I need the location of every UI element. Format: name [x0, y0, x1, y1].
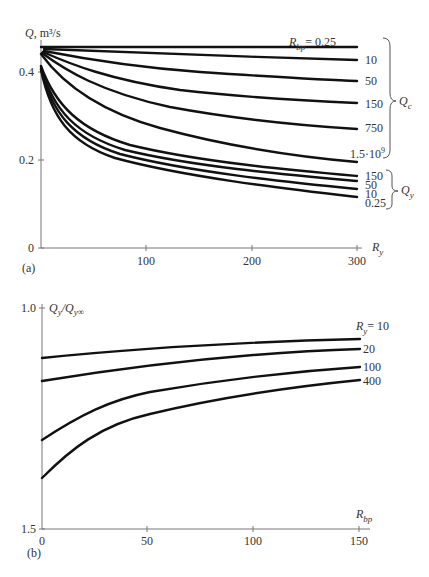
label-ry-100: 100	[363, 360, 381, 374]
xtick-a-100: 100	[137, 254, 155, 268]
label-qc-1.5e9: 1.5·109	[350, 146, 385, 161]
ytick-a-0.2: 0.2	[19, 153, 34, 167]
xtick-b-100: 100	[244, 534, 262, 548]
curve-ry-10	[42, 339, 360, 358]
panel-label-b: (b)	[27, 546, 41, 560]
curve-ry-400	[42, 380, 360, 478]
y-axis-label-b: Qy/Qy∞	[49, 301, 84, 317]
y-axis-label-a: Q, m³/s	[25, 26, 61, 40]
curve-qy-150	[41, 66, 357, 176]
group-label-qc: Qc	[399, 94, 412, 111]
label-qy-0.25: 0.25	[365, 196, 386, 210]
label-ry-20: 20	[363, 342, 375, 356]
label-ry-400: 400	[363, 374, 381, 388]
xtick-b-150: 150	[350, 534, 368, 548]
ytick-a-0.4: 0.4	[19, 65, 34, 79]
label-qc-750: 750	[365, 121, 383, 135]
figure: 0.4 0.2 0 100 200 300 Q, m³/s Ry (a) Rbp…	[0, 0, 429, 577]
legend-title-b: Ry= 10	[355, 319, 389, 336]
xtick-a-200: 200	[243, 254, 261, 268]
ytick-a-0: 0	[28, 241, 34, 255]
ytick-b-1.5: 1.5	[21, 522, 36, 536]
ytick-b-1.0: 1.0	[21, 301, 36, 315]
brace-qy	[386, 170, 398, 209]
label-qc-150: 150	[365, 97, 383, 111]
x-axis-label-b: Rbp	[355, 507, 373, 524]
xtick-a-300: 300	[348, 254, 366, 268]
x-axis-label-a: Ry	[371, 240, 383, 257]
label-qc-10: 10	[365, 53, 377, 67]
curve-qy-50	[41, 67, 357, 181]
brace-qc	[383, 38, 396, 158]
group-label-qy: Qy	[401, 183, 414, 200]
panel-a: 0.4 0.2 0 100 200 300 Q, m³/s Ry (a) Rbp…	[19, 26, 414, 275]
legend-title-a: Rbp= 0.25	[288, 35, 336, 52]
xtick-b-50: 50	[141, 534, 153, 548]
panel-label-a: (a)	[22, 261, 35, 275]
label-qc-50: 50	[365, 74, 377, 88]
panel-b: 1.0 1.5 0 50 100 150 Qy/Qy∞ Rbp (b) Ry= …	[21, 301, 389, 560]
